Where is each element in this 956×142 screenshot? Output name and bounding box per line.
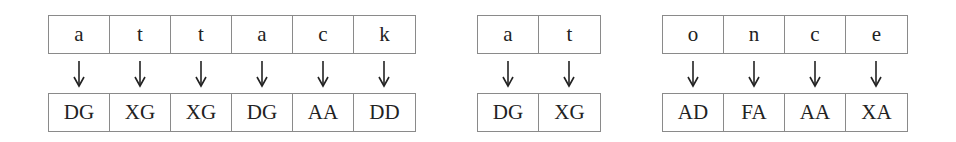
cipher-cell: XA: [846, 94, 907, 131]
cipher-cell: AA: [785, 94, 846, 131]
plain-cell: a: [478, 16, 539, 53]
plain-cell: o: [663, 16, 724, 53]
cipher-cell: FA: [724, 94, 785, 131]
down-arrow-icon: [353, 56, 414, 90]
cipher-cell: AA: [293, 94, 354, 131]
cipher-cell: DG: [49, 94, 110, 131]
ciphertext-row: AD FA AA XA: [662, 93, 908, 132]
down-arrow-icon: [170, 56, 231, 90]
ciphertext-row: DG XG XG DG AA DD: [48, 93, 416, 132]
down-arrow-icon: [662, 56, 723, 90]
plain-cell: a: [49, 16, 110, 53]
plain-cell: t: [171, 16, 232, 53]
cipher-cell: XG: [539, 94, 600, 131]
down-arrow-icon: [477, 56, 538, 90]
plain-cell: c: [785, 16, 846, 53]
plain-cell: c: [293, 16, 354, 53]
plain-cell: t: [110, 16, 171, 53]
down-arrow-icon: [723, 56, 784, 90]
down-arrow-icon: [845, 56, 906, 90]
plaintext-row: a t t a c k: [48, 15, 416, 54]
arrow-row: [477, 56, 599, 90]
down-arrow-icon: [231, 56, 292, 90]
arrow-row: [48, 56, 414, 90]
down-arrow-icon: [538, 56, 599, 90]
down-arrow-icon: [784, 56, 845, 90]
plain-cell: k: [354, 16, 415, 53]
cipher-cell: DG: [478, 94, 539, 131]
plain-cell: t: [539, 16, 600, 53]
cipher-cell: DD: [354, 94, 415, 131]
ciphertext-row: DG XG: [477, 93, 601, 132]
plaintext-row: o n c e: [662, 15, 908, 54]
plaintext-row: a t: [477, 15, 601, 54]
cipher-cell: XG: [110, 94, 171, 131]
plain-cell: n: [724, 16, 785, 53]
cipher-cell: DG: [232, 94, 293, 131]
arrow-row: [662, 56, 906, 90]
plain-cell: e: [846, 16, 907, 53]
cipher-cell: XG: [171, 94, 232, 131]
down-arrow-icon: [109, 56, 170, 90]
down-arrow-icon: [48, 56, 109, 90]
cipher-cell: AD: [663, 94, 724, 131]
plain-cell: a: [232, 16, 293, 53]
down-arrow-icon: [292, 56, 353, 90]
